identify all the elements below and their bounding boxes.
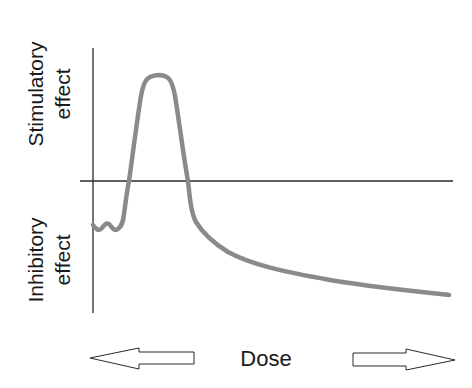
y-label-inhibitory-effect: effect xyxy=(51,234,74,285)
x-label-dose: Dose xyxy=(240,346,291,371)
y-label-stimulatory: Stimulatory xyxy=(24,41,47,147)
y-label-stimulatory-effect: effect xyxy=(51,68,74,119)
right-arrow-icon xyxy=(353,349,455,370)
hormesis-chart: Stimulatory effect Inhibitory effect Dos… xyxy=(0,0,472,388)
y-label-inhibitory: Inhibitory xyxy=(24,217,47,303)
dose-response-curve xyxy=(93,75,449,295)
left-arrow-icon xyxy=(90,348,194,369)
